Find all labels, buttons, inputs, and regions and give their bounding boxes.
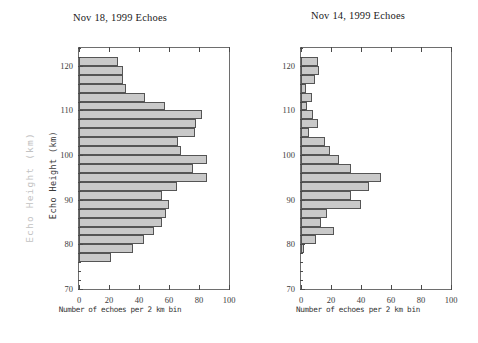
bar-series-left bbox=[79, 48, 229, 289]
bar bbox=[79, 137, 178, 146]
y-tick bbox=[300, 137, 303, 138]
bar bbox=[301, 235, 316, 244]
bar bbox=[79, 66, 123, 75]
x-tick-label: 0 bbox=[77, 295, 81, 305]
chart-panel-left: Nov 18, 1999 Echoes 70809010011012002040… bbox=[0, 0, 240, 343]
x-tick-top bbox=[109, 47, 110, 52]
y-tick bbox=[300, 66, 305, 67]
y-tick bbox=[78, 191, 81, 192]
y-tick-label: 90 bbox=[65, 195, 74, 205]
x-axis-label-left: Number of echoes per 2 km bin bbox=[0, 305, 240, 314]
y-tick bbox=[300, 155, 305, 156]
bar bbox=[79, 191, 162, 200]
y-tick-label: 110 bbox=[283, 105, 295, 115]
y-tick bbox=[300, 102, 303, 103]
chart-title-left: Nov 18, 1999 Echoes bbox=[0, 12, 240, 23]
bar bbox=[301, 164, 351, 173]
bar bbox=[301, 191, 351, 200]
chart-panel-right: Nov 14, 1999 Echoes 70809010011012002040… bbox=[238, 0, 478, 343]
y-tick bbox=[300, 235, 303, 236]
y-tick bbox=[78, 227, 81, 228]
x-tick-label: 60 bbox=[387, 295, 396, 305]
y-tick bbox=[78, 244, 83, 245]
bar bbox=[301, 200, 361, 209]
y-tick bbox=[300, 200, 305, 201]
y-tick bbox=[78, 128, 81, 129]
bar bbox=[79, 110, 202, 119]
bar bbox=[301, 173, 381, 182]
y-tick-label: 120 bbox=[282, 61, 295, 71]
y-tick bbox=[78, 110, 83, 111]
y-tick bbox=[78, 173, 81, 174]
bar bbox=[301, 110, 313, 119]
bar bbox=[79, 102, 165, 111]
y-tick-label: 80 bbox=[65, 239, 74, 249]
y-tick bbox=[300, 173, 303, 174]
bar bbox=[301, 209, 327, 218]
x-tick-label: 80 bbox=[417, 295, 426, 305]
bar bbox=[301, 75, 315, 84]
x-tick-top bbox=[331, 47, 332, 52]
y-tick-label: 100 bbox=[60, 150, 73, 160]
y-tick bbox=[300, 146, 303, 147]
y-tick bbox=[78, 253, 81, 254]
bar bbox=[79, 84, 126, 93]
x-tick-label: 20 bbox=[327, 295, 336, 305]
y-tick bbox=[300, 280, 303, 281]
x-tick bbox=[391, 285, 392, 290]
y-tick bbox=[300, 271, 303, 272]
y-tick bbox=[78, 209, 81, 210]
y-tick-label: 100 bbox=[282, 150, 295, 160]
y-tick bbox=[78, 84, 81, 85]
x-tick-top bbox=[199, 47, 200, 52]
bar bbox=[79, 57, 118, 66]
x-tick-label: 80 bbox=[195, 295, 204, 305]
y-tick-label: 120 bbox=[60, 61, 73, 71]
y-tick bbox=[300, 110, 305, 111]
x-tick-label: 40 bbox=[357, 295, 366, 305]
bar bbox=[301, 218, 321, 227]
x-tick bbox=[109, 285, 110, 290]
y-tick bbox=[78, 119, 81, 120]
bar bbox=[79, 128, 195, 137]
x-tick-label: 100 bbox=[223, 295, 236, 305]
bar bbox=[79, 200, 169, 209]
plot-area-right: 708090100110120020406080100 bbox=[300, 47, 452, 290]
x-tick-top bbox=[229, 47, 230, 52]
x-tick-label: 20 bbox=[105, 295, 114, 305]
y-tick bbox=[78, 57, 81, 58]
y-tick-label: 70 bbox=[65, 284, 74, 294]
bar bbox=[301, 93, 312, 102]
bar bbox=[79, 244, 133, 253]
bar bbox=[301, 137, 325, 146]
x-tick-top bbox=[169, 47, 170, 52]
plot-area-left: 708090100110120020406080100 bbox=[78, 47, 230, 290]
bar bbox=[301, 119, 318, 128]
y-tick bbox=[300, 128, 303, 129]
y-tick bbox=[78, 102, 81, 103]
bar bbox=[79, 235, 144, 244]
x-tick-label: 60 bbox=[165, 295, 174, 305]
y-tick-label: 110 bbox=[61, 105, 73, 115]
y-tick bbox=[78, 164, 81, 165]
y-tick bbox=[78, 137, 81, 138]
x-tick bbox=[451, 285, 452, 290]
y-tick bbox=[78, 200, 83, 201]
x-tick-top bbox=[421, 47, 422, 52]
y-tick bbox=[300, 93, 303, 94]
x-tick bbox=[301, 285, 302, 290]
y-tick bbox=[78, 146, 81, 147]
y-tick bbox=[300, 244, 305, 245]
bar bbox=[79, 173, 207, 182]
bar bbox=[79, 93, 145, 102]
x-tick bbox=[361, 285, 362, 290]
y-tick bbox=[78, 271, 81, 272]
bar bbox=[301, 84, 306, 93]
bar bbox=[79, 146, 181, 155]
x-tick-top bbox=[79, 47, 80, 52]
y-tick-label: 80 bbox=[287, 239, 296, 249]
x-tick-label: 40 bbox=[135, 295, 144, 305]
bar bbox=[79, 209, 166, 218]
y-tick bbox=[78, 93, 81, 94]
figure: Echo Height (km) Echo Height (km) Nov 18… bbox=[0, 0, 478, 343]
